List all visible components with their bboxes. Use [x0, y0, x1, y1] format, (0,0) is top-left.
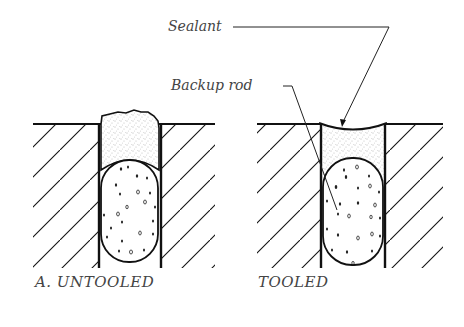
backup-rod-untooled — [101, 160, 158, 262]
substrate-left-hatch — [257, 124, 321, 268]
backup-rod-label: Backup rod — [171, 77, 252, 93]
tooled-caption: TOOLED — [258, 273, 329, 291]
tooled-joint — [257, 123, 443, 270]
untooled-joint — [33, 110, 215, 270]
substrate-left-hatch — [33, 124, 99, 268]
sealant-label: Sealant — [168, 18, 222, 34]
substrate-right-hatch — [161, 124, 215, 268]
sealant-leader — [233, 27, 389, 122]
untooled-caption: A. UNTOOLED — [35, 273, 154, 291]
substrate-right-hatch — [385, 124, 443, 268]
